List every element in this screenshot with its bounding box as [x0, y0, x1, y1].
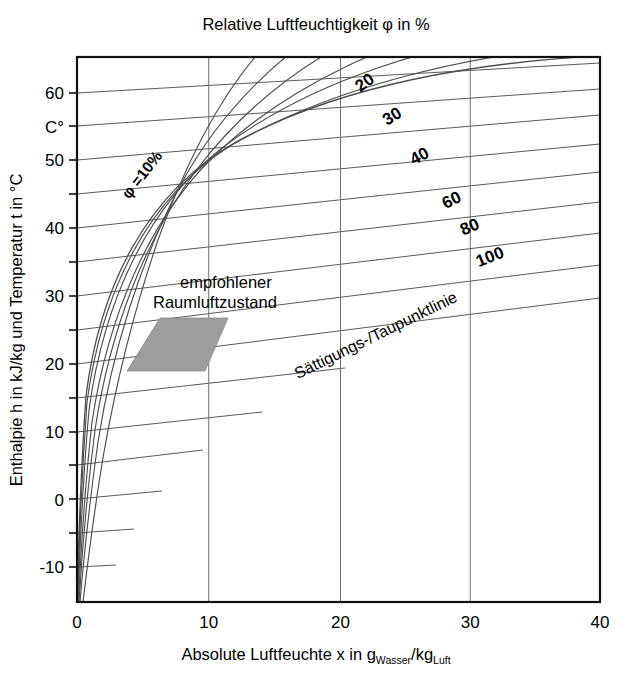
x-tick-0: 0 [72, 613, 81, 632]
x-tick-30: 30 [461, 613, 480, 632]
y-axis-label: Enthalpie h in kJ/kg und Temperatur t in… [7, 174, 25, 487]
y-tick-0: 0 [55, 491, 64, 510]
x-axis-label-sub-luft: Luft [433, 654, 451, 666]
comfort-zone-label-line2: Raumluftzustand [153, 293, 277, 311]
mollier-chart: Relative Luftfeuchtigkeit φ in % [0, 0, 632, 685]
y-tick-30: 30 [45, 287, 64, 306]
y-tick-60: 60 [45, 84, 64, 103]
x-axis-label-main: Absolute Luftfeuchte x in g [181, 645, 375, 663]
x-axis-label-sub-wasser: Wasser [376, 654, 412, 666]
y-tick-50: 50 [45, 151, 64, 170]
y-tick-minus10: -10 [39, 558, 64, 577]
y-tick-10: 10 [45, 423, 64, 442]
x-tick-10: 10 [199, 613, 218, 632]
comfort-zone-label-line1: empfohlener [180, 273, 272, 291]
x-axis-label-mid: /kg [411, 645, 433, 663]
y-tick-20: 20 [45, 355, 64, 374]
chart-title: Relative Luftfeuchtigkeit φ in % [202, 15, 429, 33]
x-tick-40: 40 [591, 613, 610, 632]
x-tick-20: 20 [331, 613, 350, 632]
x-axis-label: Absolute Luftfeuchte x in gWasser/kgLuft [181, 645, 450, 666]
y-unit-marker: C° [45, 118, 64, 137]
chart-background [0, 0, 632, 685]
y-tick-40: 40 [45, 219, 64, 238]
psychrometric-chart-svg: Relative Luftfeuchtigkeit φ in % [0, 0, 632, 685]
